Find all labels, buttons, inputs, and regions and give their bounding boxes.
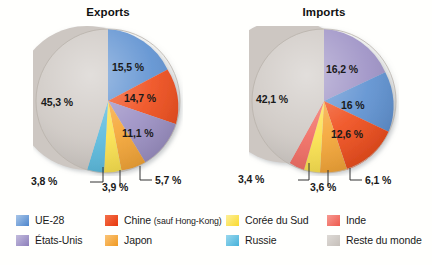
legend-label-etats-unis: États-Unis: [35, 234, 82, 246]
legend-label-coree-du-sud: Corée du Sud: [245, 214, 309, 226]
callout-imports-inde: 3,4 %: [238, 173, 264, 185]
legend-swatch-ue28-icon: [16, 215, 29, 226]
charts-row: Exports: [0, 0, 432, 200]
legend-label-chine-main: Chine: [124, 214, 151, 226]
legend-swatch-chine-icon: [105, 215, 118, 226]
legend-swatch-etats-unis-icon: [16, 235, 29, 246]
legend: UE-28 États-Unis Chine (sauf Hong-Kong) …: [0, 208, 432, 258]
legend-swatch-russie-icon: [226, 235, 239, 246]
label-exports-ue28: 15,5 %: [112, 61, 144, 73]
legend-swatch-reste-du-monde-icon: [327, 235, 340, 246]
label-imports-reste-du-monde: 42,1 %: [256, 93, 288, 105]
label-exports-chine: 14,7 %: [124, 92, 156, 104]
legend-item-etats-unis[interactable]: États-Unis: [16, 233, 82, 247]
callout-exports-japon: 5,7 %: [155, 174, 181, 186]
legend-swatch-coree-du-sud-icon: [226, 215, 239, 226]
callout-imports-japon: 6,1 %: [365, 174, 391, 186]
chart-title-exports: Exports: [0, 6, 216, 18]
legend-label-japon: Japon: [124, 234, 152, 246]
pie-chart-imports: Imports: [216, 0, 432, 200]
legend-item-inde[interactable]: Inde: [327, 213, 366, 227]
chart-title-imports: Imports: [216, 6, 432, 18]
legend-item-reste-du-monde[interactable]: Reste du monde: [327, 233, 422, 247]
legend-item-japon[interactable]: Japon: [105, 233, 152, 247]
label-imports-chine: 12,6 %: [331, 128, 363, 140]
label-exports-etats-unis: 11,1 %: [122, 127, 154, 139]
callout-imports-coree-du-sud: 3,6 %: [310, 181, 336, 193]
legend-item-russie[interactable]: Russie: [226, 233, 277, 247]
legend-swatch-japon-icon: [105, 235, 118, 246]
callout-exports-russie: 3,8 %: [31, 175, 57, 187]
label-imports-etats-unis: 16,2 %: [326, 63, 358, 75]
legend-label-chine: Chine (sauf Hong-Kong): [124, 214, 222, 226]
legend-label-inde: Inde: [346, 214, 366, 226]
legend-swatch-inde-icon: [327, 215, 340, 226]
legend-label-reste-du-monde: Reste du monde: [346, 234, 422, 246]
pie-chart-exports: Exports: [0, 0, 216, 200]
legend-label-ue28: UE-28: [35, 214, 64, 226]
legend-label-chine-sub: (sauf Hong-Kong): [154, 216, 222, 226]
label-exports-reste-du-monde: 45,3 %: [41, 96, 73, 108]
callout-exports-coree-du-sud: 3,9 %: [102, 181, 128, 193]
legend-item-chine[interactable]: Chine (sauf Hong-Kong): [105, 213, 222, 227]
legend-label-russie: Russie: [245, 234, 277, 246]
legend-item-ue28[interactable]: UE-28: [16, 213, 64, 227]
label-imports-ue28: 16 %: [341, 99, 365, 111]
legend-item-coree-du-sud[interactable]: Corée du Sud: [226, 213, 309, 227]
